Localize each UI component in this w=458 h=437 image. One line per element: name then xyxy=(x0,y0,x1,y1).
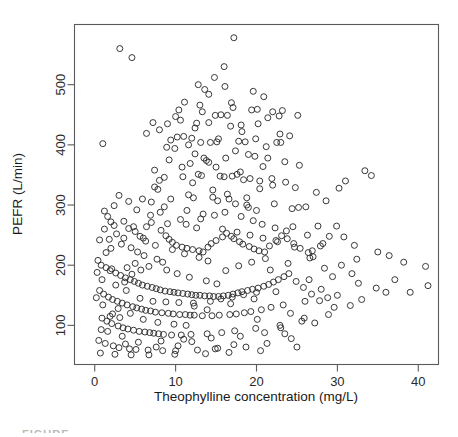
data-point xyxy=(211,74,217,80)
data-point xyxy=(182,251,188,257)
data-point xyxy=(351,242,357,248)
data-point xyxy=(254,316,260,322)
data-point xyxy=(179,164,185,170)
data-point xyxy=(222,83,228,89)
data-point xyxy=(159,310,165,316)
data-point xyxy=(334,223,340,229)
scatter-plot: 010203040 100200300400500 Theophylline c… xyxy=(0,0,458,437)
figure-caption-fragment: FIGURE xyxy=(22,429,92,433)
data-point xyxy=(373,285,379,291)
data-point xyxy=(321,265,327,271)
data-point xyxy=(112,351,118,357)
data-point xyxy=(175,343,181,349)
data-point xyxy=(171,321,177,327)
data-point xyxy=(166,157,172,163)
data-point xyxy=(105,213,111,219)
data-point xyxy=(190,247,196,253)
data-point xyxy=(277,131,283,137)
data-point xyxy=(199,313,205,319)
data-point xyxy=(103,265,109,271)
data-point xyxy=(99,277,105,283)
data-point xyxy=(215,198,221,204)
data-point xyxy=(137,295,143,301)
data-point xyxy=(264,340,270,346)
data-point xyxy=(213,238,219,244)
data-point xyxy=(257,186,263,192)
data-point xyxy=(312,320,318,326)
data-point xyxy=(133,346,139,352)
y-tick-label: 500 xyxy=(53,74,68,96)
data-point xyxy=(294,344,300,350)
data-point xyxy=(231,35,237,41)
data-point xyxy=(200,211,206,217)
data-point xyxy=(139,196,145,202)
data-point xyxy=(121,218,127,224)
data-point xyxy=(176,107,182,113)
data-point xyxy=(250,218,256,224)
data-point xyxy=(150,120,156,126)
data-point xyxy=(296,204,302,210)
data-point xyxy=(268,304,274,310)
data-point xyxy=(192,151,198,157)
data-point xyxy=(209,313,215,319)
data-point xyxy=(121,235,127,241)
y-axis-ticks: 100200300400500 xyxy=(53,74,75,336)
data-point xyxy=(155,319,161,325)
data-point xyxy=(186,274,192,280)
data-point xyxy=(98,327,104,333)
data-point xyxy=(250,88,256,94)
data-point xyxy=(161,174,167,180)
data-point xyxy=(239,129,245,135)
y-tick-label: 100 xyxy=(53,315,68,337)
data-point xyxy=(287,133,293,139)
data-point xyxy=(238,213,244,219)
data-point xyxy=(315,223,321,229)
data-point xyxy=(296,162,302,168)
data-point xyxy=(243,344,249,350)
data-point xyxy=(300,284,306,290)
data-point xyxy=(169,247,175,253)
x-tick-label: 40 xyxy=(411,374,425,389)
data-point xyxy=(122,279,128,285)
data-point xyxy=(349,271,355,277)
data-point xyxy=(152,167,158,173)
data-point xyxy=(165,221,171,227)
data-point xyxy=(184,207,190,213)
data-point xyxy=(172,351,178,357)
data-point xyxy=(279,233,285,239)
data-point xyxy=(177,117,183,123)
data-points-layer xyxy=(93,35,431,358)
data-point xyxy=(306,277,312,283)
data-point xyxy=(236,138,242,144)
data-point xyxy=(124,265,130,271)
data-point xyxy=(176,300,182,306)
x-tick-label: 30 xyxy=(330,374,344,389)
data-point xyxy=(115,306,121,312)
data-point xyxy=(232,201,238,207)
data-point xyxy=(109,266,115,272)
y-tick-label: 400 xyxy=(53,134,68,156)
data-point xyxy=(219,330,225,336)
y-axis-title: PEFR (L/min) xyxy=(10,153,25,235)
data-point xyxy=(342,178,348,184)
data-point xyxy=(148,199,154,205)
data-point xyxy=(116,192,122,198)
x-axis-ticks: 010203040 xyxy=(91,365,425,389)
data-point xyxy=(191,312,197,318)
data-point xyxy=(108,219,114,225)
data-point xyxy=(222,209,228,215)
data-point xyxy=(123,287,129,293)
data-point xyxy=(425,283,431,289)
data-point xyxy=(234,229,240,235)
data-point xyxy=(188,331,194,337)
data-point xyxy=(292,185,298,191)
data-point xyxy=(241,310,247,316)
data-point xyxy=(206,120,212,126)
data-point xyxy=(150,298,156,304)
data-point xyxy=(111,222,117,228)
data-point xyxy=(177,312,183,318)
x-tick-label: 20 xyxy=(249,374,263,389)
data-point xyxy=(157,209,163,215)
data-point xyxy=(117,46,123,52)
data-point xyxy=(189,135,195,141)
